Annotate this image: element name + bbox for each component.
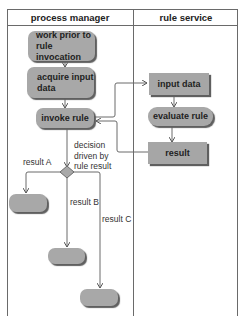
node-outcome-b bbox=[48, 248, 85, 264]
node-label-line: data bbox=[33, 83, 94, 94]
node-input-data: input data bbox=[149, 73, 209, 95]
node-label: input data bbox=[149, 79, 209, 90]
decision-diamond bbox=[60, 166, 74, 178]
node-work-prior: work prior torule invocation bbox=[28, 31, 95, 61]
decision-label-line: decision bbox=[74, 140, 111, 151]
label-result-c: result C bbox=[102, 214, 131, 225]
node-label: result bbox=[148, 148, 207, 159]
label-result-a: result A bbox=[23, 157, 51, 168]
node-result: result bbox=[148, 142, 207, 164]
node-label: evaluate rule bbox=[148, 111, 213, 122]
node-outcome-c bbox=[80, 289, 118, 306]
node-label-line: work prior to bbox=[32, 30, 95, 41]
decision-label-line: rule result bbox=[74, 161, 111, 172]
node-evaluate-rule: evaluate rule bbox=[148, 107, 213, 126]
label-result-b: result B bbox=[70, 197, 99, 208]
decision-label-line: driven by bbox=[74, 151, 111, 162]
node-label-line: acquire input bbox=[33, 72, 94, 83]
node-acquire-input: acquire inputdata bbox=[27, 67, 94, 98]
node-label: invoke rule bbox=[36, 113, 94, 124]
node-outcome-a bbox=[9, 194, 47, 212]
decision-label: decision driven by rule result bbox=[74, 140, 111, 172]
node-invoke-rule: invoke rule bbox=[36, 108, 94, 128]
node-label-line: rule invocation bbox=[32, 41, 95, 63]
